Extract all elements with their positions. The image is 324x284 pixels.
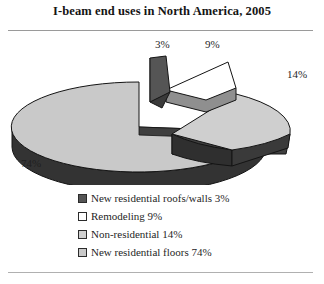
legend-item-label: New residential roofs/walls 3%: [91, 192, 229, 204]
legend-item-new-residential-floors[interactable]: New residential floors 74%: [78, 244, 318, 260]
legend-swatch-icon: [78, 194, 87, 203]
legend-item-remodeling[interactable]: Remodeling 9%: [78, 208, 318, 224]
legend-swatch-icon: [78, 212, 87, 221]
slice-label-3: 3%: [155, 38, 170, 50]
page-title: I-beam end uses in North America, 2005: [0, 4, 324, 19]
legend-item-new-residential-roofs-walls[interactable]: New residential roofs/walls 3%: [78, 190, 318, 206]
footer-divider: [8, 272, 313, 273]
slice-label-74: 74%: [21, 157, 41, 169]
slice-label-14: 14%: [287, 68, 307, 80]
pie-chart-svg: [0, 30, 324, 185]
chart-page: I-beam end uses in North America, 2005: [0, 0, 324, 284]
slice-label-9: 9%: [205, 38, 220, 50]
legend-swatch-icon: [78, 230, 87, 239]
pie-slice-remodeling[interactable]: [166, 62, 236, 112]
legend-item-label: New residential floors 74%: [91, 246, 212, 258]
legend-item-non-residential[interactable]: Non-residential 14%: [78, 226, 318, 242]
chart-legend: New residential roofs/walls 3% Remodelin…: [78, 190, 318, 262]
pie-chart: [0, 30, 324, 185]
legend-item-label: Remodeling 9%: [91, 210, 162, 222]
legend-item-label: Non-residential 14%: [91, 228, 182, 240]
legend-swatch-icon: [78, 248, 87, 257]
